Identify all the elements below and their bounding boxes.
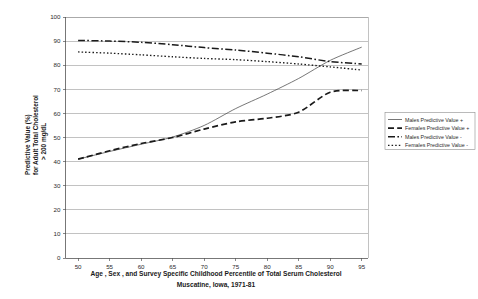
x-tick-label-60: 60 [138, 263, 145, 270]
legend-label-3[interactable]: Females Predictive Value - [405, 142, 468, 148]
x-tick-label-95: 95 [358, 263, 365, 270]
line-chart: 0102030405060708090100 50556065707580859… [0, 0, 478, 299]
caption-line1: Age , Sex , and Survey Specific Childhoo… [90, 270, 341, 278]
x-tick-label-65: 65 [169, 263, 176, 270]
y-tick-label-60: 60 [54, 110, 61, 117]
series-line-2 [78, 40, 362, 64]
x-tick-label-55: 55 [106, 263, 113, 270]
x-tick-labels: 50556065707580859095 [75, 263, 366, 270]
x-axis-caption: Age , Sex , and Survey Specific Childhoo… [90, 270, 341, 289]
y-tick-labels: 0102030405060708090100 [50, 13, 61, 261]
y-tick-label-10: 10 [54, 230, 61, 237]
y-tick-label-70: 70 [54, 86, 61, 93]
x-tick-label-80: 80 [264, 263, 271, 270]
y-tick-label-90: 90 [54, 37, 61, 44]
y-tick-label-0: 0 [57, 254, 61, 261]
y-tick-marks [63, 17, 66, 258]
x-tick-label-70: 70 [201, 263, 208, 270]
legend-label-0[interactable]: Males Predictive Value + [405, 117, 463, 123]
y-tick-label-100: 100 [50, 13, 61, 20]
legend-label-1[interactable]: Females Predictive Value + [405, 125, 469, 131]
y-axis-title-line2: for Adult Total Cholesterol [32, 95, 39, 175]
x-tick-label-75: 75 [232, 263, 239, 270]
y-axis-title-line1: Predictive Value (%) [24, 114, 32, 175]
series-line-3 [78, 52, 362, 70]
plot-area-wrapper: 0102030405060708090100 50556065707580859… [0, 0, 478, 299]
x-tick-label-90: 90 [327, 263, 334, 270]
y-tick-label-20: 20 [54, 206, 61, 213]
x-tick-label-85: 85 [295, 263, 302, 270]
y-tick-label-30: 30 [54, 182, 61, 189]
x-tick-marks [78, 258, 362, 261]
x-tick-label-50: 50 [75, 263, 82, 270]
y-tick-label-40: 40 [54, 158, 61, 165]
y-tick-label-50: 50 [54, 134, 61, 141]
chart-legend[interactable]: Males Predictive Value +Females Predicti… [385, 113, 475, 150]
series-line-0 [78, 47, 362, 159]
y-axis-title: Predictive Value (%) for Adult Total Cho… [24, 95, 48, 175]
data-series-group [78, 40, 362, 159]
chart-figure: 0102030405060708090100 50556065707580859… [0, 0, 478, 299]
caption-line2: Muscatine, Iowa, 1971-81 [177, 281, 256, 289]
legend-label-2[interactable]: Males Predictive Value - [405, 134, 462, 140]
y-tick-label-80: 80 [54, 61, 61, 68]
y-axis-title-line3: > 200 mg/dL [40, 123, 48, 160]
